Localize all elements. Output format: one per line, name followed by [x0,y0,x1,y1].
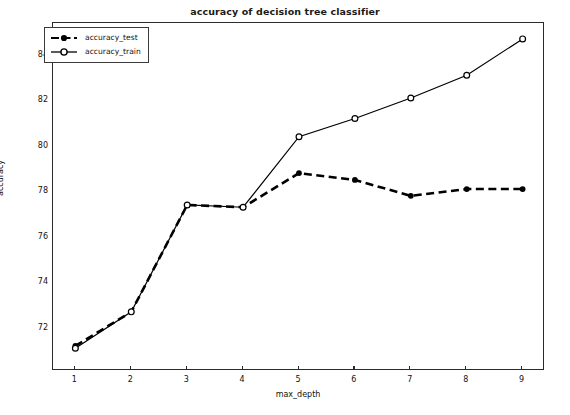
x-tick-label: 4 [230,375,254,384]
x-tick-label: 9 [510,375,534,384]
data-point [240,204,246,210]
series-line [75,39,522,348]
y-axis-label: accuracy [0,160,5,196]
data-point [520,36,526,42]
plot-inner [53,23,543,369]
x-tick-label: 7 [398,375,422,384]
data-point [72,345,78,351]
solid-line-marker-icon [50,46,78,58]
chart-page: accuracy of decision tree classifier 727… [0,0,570,415]
dashed-line-marker-icon [50,32,78,44]
data-point [408,95,414,101]
x-tick-mark [186,366,187,370]
x-axis-ticks: 123456789 [52,370,544,392]
x-tick-mark [409,366,410,370]
x-tick-label: 3 [174,375,198,384]
data-point [128,309,134,315]
x-tick-mark [74,366,75,370]
legend: accuracy_test accuracy_train [44,27,149,63]
data-point [296,134,302,140]
series-line [75,173,522,346]
x-tick-label: 1 [62,375,86,384]
y-tick-label: 80 [18,140,48,149]
data-point [352,116,358,122]
series-accuracy_test [72,170,525,349]
x-tick-label: 5 [286,375,310,384]
x-tick-label: 6 [342,375,366,384]
data-point [464,186,470,192]
legend-item-accuracy-train: accuracy_train [50,46,141,58]
data-point [520,186,526,192]
y-tick-label: 76 [18,231,48,240]
x-axis-label: max_depth [52,390,544,399]
data-point [408,193,414,199]
y-tick-label: 72 [18,322,48,331]
series-accuracy_train [72,36,525,351]
y-tick-label: 74 [18,277,48,286]
chart-title: accuracy of decision tree classifier [0,6,570,17]
x-tick-label: 8 [454,375,478,384]
data-point [184,202,190,208]
x-tick-mark [521,366,522,370]
plot-area [52,22,544,370]
y-tick-label: 82 [18,95,48,104]
legend-label: accuracy_train [85,46,141,58]
data-point [464,72,470,78]
y-axis-ticks: 72747678808284 [14,22,48,370]
x-tick-mark [298,366,299,370]
x-tick-mark [353,366,354,370]
y-tick-label: 78 [18,186,48,195]
x-tick-mark [130,366,131,370]
x-tick-label: 2 [118,375,142,384]
data-series-layer [53,23,545,371]
x-tick-mark [242,366,243,370]
data-point [296,170,302,176]
x-tick-mark [465,366,466,370]
data-point [352,177,358,183]
legend-label: accuracy_test [85,32,138,44]
legend-item-accuracy-test: accuracy_test [50,32,141,44]
